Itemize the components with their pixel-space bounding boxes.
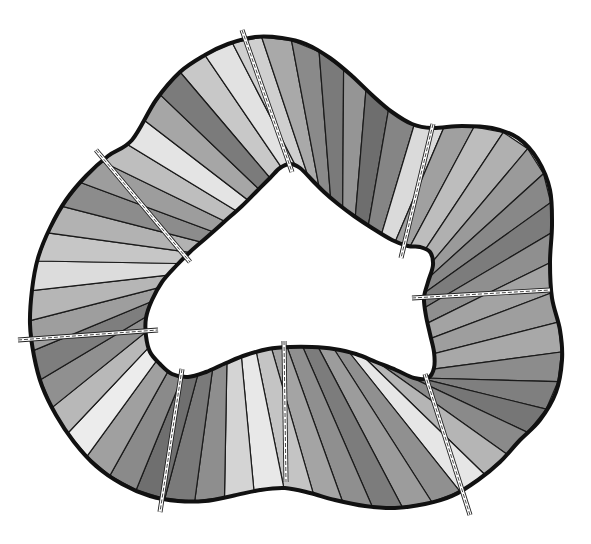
wavy-ring-diagram — [0, 0, 591, 544]
